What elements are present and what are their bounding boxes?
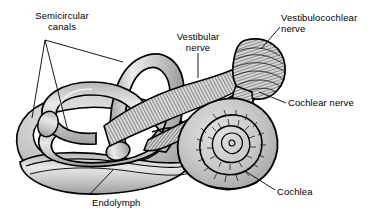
label-vestibulocochlear-nerve: Vestibulocochlear nerve: [281, 12, 373, 34]
label-vestibular-nerve: Vestibular nerve: [166, 31, 230, 53]
inner-ear-diagram: Semicircular canals Vestibular nerve Ves…: [0, 0, 375, 222]
label-cochlea: Cochlea: [277, 186, 332, 197]
label-semicircular-canals: Semicircular canals: [14, 10, 110, 32]
label-cochlear-nerve: Cochlear nerve: [288, 97, 373, 108]
label-endolymph: Endolymph: [92, 197, 158, 208]
